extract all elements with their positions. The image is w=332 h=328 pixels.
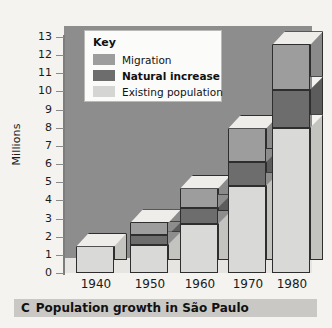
bar-segment-existing xyxy=(180,224,218,273)
legend-swatch-icon xyxy=(93,70,115,81)
y-tick-label: 6 xyxy=(30,158,52,169)
caption-letter: C xyxy=(21,301,30,315)
y-tick-label: 10 xyxy=(30,85,52,96)
y-tick-mark xyxy=(56,37,64,38)
y-tick-label: 11 xyxy=(30,67,52,78)
caption-text: Population growth in São Paulo xyxy=(36,301,249,315)
y-tick-mark xyxy=(56,219,64,220)
y-axis-title: Millions xyxy=(10,110,23,180)
bar-segment-migration xyxy=(130,222,168,235)
x-axis-label-1980: 1980 xyxy=(268,277,316,291)
legend-item-label: Natural increase xyxy=(122,70,220,82)
y-tick-mark xyxy=(56,73,64,74)
y-tick-label: 2 xyxy=(30,231,52,242)
legend-item: Migration xyxy=(93,52,215,67)
y-tick-label: 5 xyxy=(30,176,52,187)
figure-caption: C Population growth in São Paulo xyxy=(14,299,317,317)
y-tick-label: 3 xyxy=(30,213,52,224)
y-tick-mark xyxy=(56,146,64,147)
bar-segment-existing xyxy=(130,245,168,273)
legend-swatch-icon xyxy=(93,54,115,65)
y-tick-label: 8 xyxy=(30,122,52,133)
y-tick-mark xyxy=(56,110,64,111)
legend-title: Key xyxy=(93,36,215,49)
legend-item: Existing population xyxy=(93,84,215,99)
bar-segment-natural xyxy=(180,208,218,224)
y-tick-mark xyxy=(56,237,64,238)
bar-segment-natural xyxy=(272,90,310,128)
bar-segment-existing xyxy=(76,246,114,273)
y-tick-label: 9 xyxy=(30,104,52,115)
x-axis-label-1970: 1970 xyxy=(224,277,272,291)
y-tick-mark xyxy=(56,91,64,92)
y-tick-label: 7 xyxy=(30,140,52,151)
bar-segment-natural xyxy=(228,162,266,186)
bar-segment-existing xyxy=(228,186,266,273)
legend-swatch-icon xyxy=(93,86,115,97)
figure-population-growth-sao-paulo: Millions 131211109876543210 194019501960… xyxy=(0,0,332,328)
y-tick-mark xyxy=(56,255,64,256)
y-tick-mark xyxy=(56,164,64,165)
legend-item-label: Existing population xyxy=(122,86,223,98)
bar-segment-migration xyxy=(228,128,266,162)
bar-segment-migration xyxy=(180,188,218,208)
x-axis-label-1960: 1960 xyxy=(176,277,224,291)
y-tick-mark xyxy=(56,273,64,274)
y-tick-mark xyxy=(56,182,64,183)
x-axis-label-1950: 1950 xyxy=(126,277,174,291)
bar-segment-natural xyxy=(130,235,168,245)
legend-item-label: Migration xyxy=(122,54,172,66)
bar-segment-existing xyxy=(272,128,310,273)
y-tick-mark xyxy=(56,200,64,201)
y-tick-label: 13 xyxy=(30,31,52,42)
y-tick-mark xyxy=(56,128,64,129)
y-tick-label: 1 xyxy=(30,249,52,260)
bar-segment-side-existing xyxy=(310,115,323,260)
y-tick-label: 4 xyxy=(30,194,52,205)
x-axis-label-1940: 1940 xyxy=(72,277,120,291)
bar-segment-migration xyxy=(272,44,310,89)
y-tick-label: 0 xyxy=(30,267,52,278)
legend-key: Key MigrationNatural increaseExisting po… xyxy=(84,30,222,102)
y-tick-label: 12 xyxy=(30,49,52,60)
y-axis-line xyxy=(63,35,65,275)
y-tick-mark xyxy=(56,55,64,56)
legend-rows: MigrationNatural increaseExisting popula… xyxy=(93,52,215,99)
legend-item: Natural increase xyxy=(93,68,215,83)
